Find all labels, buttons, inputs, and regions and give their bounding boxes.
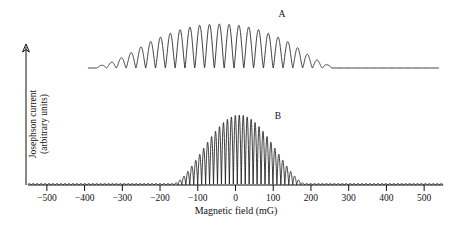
x-axis-tick-label: −500 (37, 193, 57, 203)
x-axis-title: Magnetic field (mG) (195, 205, 278, 217)
x-axis-tick-label: 300 (342, 193, 357, 203)
y-axis-title-line2: (arbitrary units) (38, 90, 49, 158)
x-axis-tick-labels: −500−400−300−200−1000100200300400500 (37, 193, 431, 203)
x-axis-tick-label: 0 (233, 193, 238, 203)
x-axis-tick-label: 200 (304, 193, 319, 203)
plot-canvas: −500−400−300−200−1000100200300400500 A B… (0, 0, 452, 228)
x-axis-ticks (47, 185, 424, 191)
curve-a-label: A (279, 9, 286, 19)
x-axis-tick-label: 400 (379, 193, 394, 203)
x-axis-tick-label: −400 (75, 193, 95, 203)
y-axis-title-line1: Josephson current (28, 90, 39, 158)
x-axis-tick-label: 100 (266, 193, 281, 203)
y-axis-title: Josephson current (arbitrary units) (30, 68, 46, 180)
x-axis-tick-label: −200 (150, 193, 170, 203)
curve-a-trace (88, 24, 438, 68)
x-axis-tick-label: −300 (113, 193, 133, 203)
x-axis-tick-label: 500 (417, 193, 432, 203)
curve-b-trace (28, 115, 443, 185)
curve-b-label: B (275, 111, 281, 121)
x-axis-tick-label: −100 (188, 193, 208, 203)
figure-josephson-interference: −500−400−300−200−1000100200300400500 A B… (0, 0, 452, 228)
